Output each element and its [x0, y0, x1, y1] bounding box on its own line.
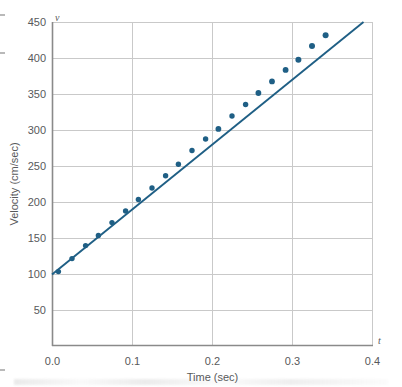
x-tick-label-0.1: 0.1 [125, 355, 140, 367]
x-tick-label-0.3: 0.3 [285, 355, 300, 367]
data-point [109, 220, 114, 225]
y-tick-label-150: 150 [28, 232, 46, 244]
data-point [256, 90, 262, 96]
y-tick-label-400: 400 [28, 52, 46, 64]
data-point [229, 113, 234, 118]
data-point [203, 136, 208, 141]
data-point [243, 102, 248, 107]
y-axis-title: Velocity (cm/sec) [8, 142, 20, 225]
data-point [295, 57, 301, 63]
data-point [123, 208, 128, 213]
data-point [323, 32, 329, 38]
x-axis-title: Time (sec) [187, 371, 239, 383]
x-tick-label-0.2: 0.2 [205, 355, 220, 367]
x-axis-variable-label: t [378, 335, 381, 346]
x-tick-label-0.4: 0.4 [365, 355, 380, 367]
data-point [163, 173, 168, 178]
y-tick-label-100: 100 [28, 268, 46, 280]
y-tick-label-450: 450 [28, 16, 46, 28]
data-point [149, 185, 154, 190]
data-point [189, 148, 194, 153]
data-point [269, 79, 275, 85]
data-point [176, 162, 181, 167]
y-tick-label-50: 50 [34, 304, 46, 316]
y-tick-label-200: 200 [28, 196, 46, 208]
data-point [309, 43, 315, 49]
data-point [96, 233, 101, 238]
data-point [56, 269, 61, 274]
y-tick-label-350: 350 [28, 88, 46, 100]
data-point [283, 67, 289, 73]
y-axis-variable-label: v [55, 12, 60, 23]
data-point [216, 126, 222, 132]
figure-container: 450 400 350 300 250 200 150 100 50 0.0 0… [0, 0, 402, 387]
y-tick-label-250: 250 [28, 160, 46, 172]
vertical-gridlines [133, 22, 373, 346]
data-point [69, 256, 74, 261]
velocity-vs-time-chart: 450 400 350 300 250 200 150 100 50 0.0 0… [0, 0, 402, 387]
data-point [136, 197, 141, 202]
x-tick-label-0.0: 0.0 [45, 355, 60, 367]
data-point [83, 243, 88, 248]
y-tick-label-300: 300 [28, 124, 46, 136]
